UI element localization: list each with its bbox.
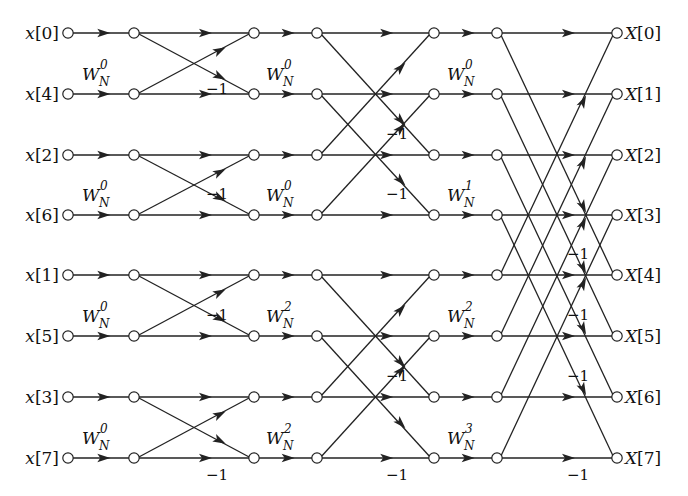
node (249, 392, 259, 402)
node (492, 331, 502, 341)
svg-text:N: N (463, 75, 475, 89)
node (312, 392, 322, 402)
svg-text:N: N (282, 75, 294, 89)
output-label-6: X[6] (623, 387, 661, 407)
negation-label-s3-r6: −1 (567, 367, 589, 385)
edges (73, 33, 614, 458)
negation-label-s1-r1: −1 (206, 80, 228, 98)
output-label-4: X[4] (623, 265, 661, 285)
svg-text:0: 0 (100, 300, 108, 314)
arrow-icon (577, 94, 590, 109)
svg-text:2: 2 (283, 422, 292, 436)
node (429, 331, 439, 341)
svg-text:2: 2 (283, 300, 292, 314)
output-label-7: X[7] (623, 448, 661, 468)
arrow-icon (212, 408, 227, 421)
output-label-1: X[1] (623, 84, 661, 104)
node (312, 270, 322, 280)
node (492, 150, 502, 160)
svg-text:0: 0 (100, 422, 108, 436)
output-label-2: X[2] (623, 145, 661, 165)
twiddle-label-s1-r5: WN0 (82, 300, 110, 331)
arrow-icon (212, 165, 227, 178)
output-label-5: X[5] (623, 326, 661, 346)
output-node (612, 453, 622, 463)
svg-text:N: N (98, 196, 110, 210)
arrow-icon (212, 434, 227, 447)
node (492, 28, 502, 38)
node (249, 331, 259, 341)
node (492, 210, 502, 220)
output-node (612, 150, 622, 160)
svg-text:N: N (98, 75, 110, 89)
twiddle-label-s2-r1: WN0 (266, 58, 294, 89)
node (129, 392, 139, 402)
svg-text:N: N (463, 317, 475, 331)
negation-label-s2-r2: −1 (386, 125, 408, 143)
node (312, 89, 322, 99)
negation-label-s3-r7: −1 (567, 466, 589, 484)
twiddle-label-s3-r3: WN1 (447, 179, 475, 210)
negation-label-s3-r5: −1 (567, 306, 589, 324)
svg-text:2: 2 (464, 300, 473, 314)
arrow-icon (577, 276, 590, 291)
input-label-2: x[2] (25, 145, 59, 165)
input-label-3: x[6] (25, 205, 59, 225)
node (129, 28, 139, 38)
output-node (612, 331, 622, 341)
output-label-0: X[0] (623, 23, 661, 43)
node (312, 453, 322, 463)
node (129, 210, 139, 220)
arrow-icon (577, 155, 590, 170)
twiddle-label-s3-r7: WN3 (447, 422, 475, 453)
input-node (63, 270, 73, 280)
negation-label-s2-r6: −1 (386, 367, 408, 385)
node (429, 150, 439, 160)
node (249, 270, 259, 280)
negation-label-s2-r3: −1 (386, 185, 408, 203)
node (429, 210, 439, 220)
output-node (612, 28, 622, 38)
svg-text:0: 0 (100, 179, 108, 193)
input-node (63, 453, 73, 463)
node (129, 331, 139, 341)
node (129, 150, 139, 160)
svg-text:N: N (98, 439, 110, 453)
fft-flow-graph: x[0]x[4]x[2]x[6]x[1]x[5]x[3]x[7]X[0]X[1]… (0, 0, 688, 496)
svg-text:N: N (282, 196, 294, 210)
node (129, 270, 139, 280)
twiddle-label-s1-r1: WN0 (82, 58, 110, 89)
input-node (63, 150, 73, 160)
node (312, 28, 322, 38)
node (249, 453, 259, 463)
svg-text:N: N (282, 439, 294, 453)
arrow-icon (212, 286, 227, 299)
input-label-5: x[5] (25, 326, 59, 346)
svg-text:N: N (282, 317, 294, 331)
twiddle-label-s2-r7: WN2 (266, 422, 294, 453)
node (492, 453, 502, 463)
svg-text:N: N (463, 439, 475, 453)
svg-text:N: N (98, 317, 110, 331)
node (249, 89, 259, 99)
node (249, 28, 259, 38)
twiddle-label-s2-r5: WN2 (266, 300, 294, 331)
input-label-4: x[1] (25, 265, 59, 285)
output-label-3: X[3] (623, 205, 661, 225)
svg-text:0: 0 (100, 58, 108, 72)
input-node (63, 392, 73, 402)
node (492, 89, 502, 99)
output-node (612, 270, 622, 280)
node (249, 150, 259, 160)
node (312, 331, 322, 341)
negation-label-s1-r7: −1 (206, 466, 228, 484)
svg-text:N: N (463, 196, 475, 210)
input-label-0: x[0] (25, 23, 59, 43)
node (429, 89, 439, 99)
input-node (63, 210, 73, 220)
input-label-7: x[7] (25, 448, 59, 468)
negation-label-s2-r7: −1 (386, 466, 408, 484)
input-label-1: x[4] (25, 84, 59, 104)
node (312, 210, 322, 220)
node (492, 392, 502, 402)
